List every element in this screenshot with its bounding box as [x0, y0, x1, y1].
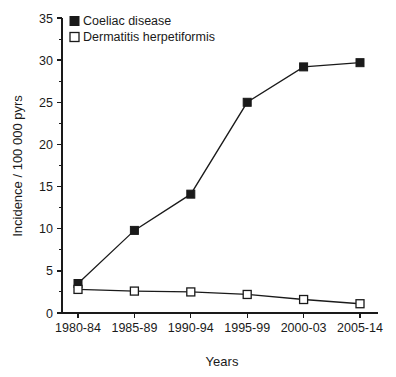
legend-label-1: Coeliac disease: [83, 14, 171, 28]
legend-marker-1: [70, 17, 79, 26]
y-tick-label: 20: [39, 138, 53, 152]
y-tick-label: 15: [39, 180, 53, 194]
data-point-marker: [243, 98, 251, 106]
x-tick-label: 1980-84: [55, 321, 101, 335]
data-point-marker: [74, 285, 82, 293]
y-tick-label: 5: [46, 264, 53, 278]
y-tick-label: 0: [46, 307, 53, 321]
x-tick-label: 1995-99: [224, 321, 270, 335]
x-axis-title: Years: [206, 354, 239, 369]
data-point-marker: [130, 287, 138, 295]
y-axis-title: Incidence / 100 000 pyrs: [10, 95, 25, 237]
x-tick-label: 1990-94: [168, 321, 214, 335]
data-point-marker: [187, 288, 195, 296]
x-tick-label: 2005-14: [337, 321, 383, 335]
y-tick-label: 35: [39, 12, 53, 26]
data-point-marker: [130, 226, 138, 234]
y-axis: 05101520253035: [39, 12, 62, 321]
data-point-marker: [356, 300, 364, 308]
x-axis: 1980-841985-891990-941995-992000-032005-…: [55, 313, 383, 335]
x-tick-label: 2000-03: [281, 321, 327, 335]
series-line-1: [78, 63, 360, 284]
data-series-group: [74, 59, 364, 308]
y-tick-label: 30: [39, 54, 53, 68]
legend-label-2: Dermatitis herpetiformis: [83, 30, 215, 44]
data-point-marker: [300, 63, 308, 71]
data-point-marker: [300, 296, 308, 304]
y-tick-label: 25: [39, 96, 53, 110]
data-point-marker: [243, 290, 251, 298]
data-point-marker: [187, 190, 195, 198]
chart-figure: 05101520253035 1980-841985-891990-941995…: [0, 0, 396, 377]
data-point-marker: [356, 59, 364, 67]
series-line-2: [78, 289, 360, 303]
chart-legend: Coeliac diseaseDermatitis herpetiformis: [70, 14, 215, 44]
legend-marker-2: [70, 33, 79, 42]
y-tick-label: 10: [39, 222, 53, 236]
incidence-line-chart: 05101520253035 1980-841985-891990-941995…: [0, 0, 396, 377]
x-tick-label: 1985-89: [111, 321, 157, 335]
